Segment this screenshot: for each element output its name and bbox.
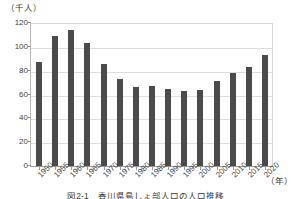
- bar-slot: [31, 23, 47, 166]
- y-axis-tick-label: 100: [6, 43, 28, 51]
- bar[interactable]: [165, 89, 171, 166]
- bar[interactable]: [68, 30, 74, 166]
- bar[interactable]: [133, 87, 139, 166]
- bar[interactable]: [101, 64, 107, 166]
- bar-slot: [192, 23, 208, 166]
- bar-slot: [96, 23, 112, 166]
- bar-chart: （千人） 120100806040200 1950195519601965197…: [0, 0, 291, 199]
- bar-slot: [160, 23, 176, 166]
- figure-caption: 図2-1 香川県島しょ部人口の人口推移: [0, 191, 291, 199]
- bar-slot: [257, 23, 273, 166]
- bar[interactable]: [52, 36, 58, 166]
- bar-slot: [208, 23, 224, 166]
- y-axis-tick-label: 0: [6, 162, 28, 170]
- bar[interactable]: [262, 55, 268, 166]
- y-axis-tick-label: 80: [6, 67, 28, 75]
- bar-slot: [47, 23, 63, 166]
- bar-slot: [128, 23, 144, 166]
- y-axis-tick-label: 120: [6, 19, 28, 27]
- bar[interactable]: [214, 81, 220, 166]
- bar-slot: [112, 23, 128, 166]
- y-axis-tick-label: 60: [6, 91, 28, 99]
- bar[interactable]: [84, 43, 90, 166]
- bar-slot: [241, 23, 257, 166]
- bar-slot: [63, 23, 79, 166]
- bar-series: [31, 23, 273, 166]
- y-axis-tick-label: 20: [6, 138, 28, 146]
- bar-slot: [144, 23, 160, 166]
- y-axis-tick-label: 40: [6, 114, 28, 122]
- bar-slot: [176, 23, 192, 166]
- bar[interactable]: [149, 86, 155, 166]
- bar-slot: [225, 23, 241, 166]
- bar[interactable]: [230, 73, 236, 166]
- bar[interactable]: [197, 90, 203, 166]
- y-axis-unit-label: （千人）: [6, 3, 42, 13]
- bar[interactable]: [36, 62, 42, 166]
- bar-slot: [79, 23, 95, 166]
- bar[interactable]: [117, 79, 123, 166]
- x-axis-unit-label: （年）: [266, 176, 291, 186]
- bar[interactable]: [181, 91, 187, 166]
- bar[interactable]: [246, 67, 252, 166]
